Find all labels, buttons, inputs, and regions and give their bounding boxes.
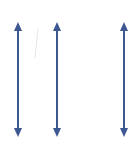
arrow-head-up-icon xyxy=(14,22,22,31)
double-arrow-1 xyxy=(14,22,22,137)
arrow-head-up-icon xyxy=(53,22,61,31)
arrow-head-down-icon xyxy=(14,128,22,137)
double-arrow-3 xyxy=(120,22,128,137)
diagram-canvas xyxy=(0,0,134,148)
arrow-head-up-icon xyxy=(120,22,128,31)
faint-mark xyxy=(35,28,38,58)
double-arrow-2 xyxy=(53,22,61,137)
arrow-head-down-icon xyxy=(53,128,61,137)
arrow-head-down-icon xyxy=(120,128,128,137)
